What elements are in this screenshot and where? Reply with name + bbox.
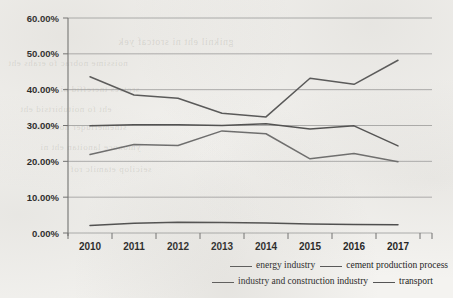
x-tick-label-2015: 2015 [299, 241, 322, 252]
legend-label-energy-industry: energy industry [256, 261, 315, 271]
y-tick-label-10: 10.00% [27, 192, 60, 203]
legend-line-icon [212, 282, 234, 283]
legend-item-cement-production-process[interactable]: cement production process [320, 261, 448, 271]
x-tick-label-2011: 2011 [123, 241, 145, 252]
x-axis-ticks [68, 233, 432, 239]
y-axis-ticks [63, 18, 68, 233]
legend-line-icon [373, 282, 395, 283]
line-chart: 60.00% 50.00% 40.00% 30.00% 20.00% 10.00… [0, 0, 453, 298]
x-tick-label-2012: 2012 [167, 241, 190, 252]
legend-item-energy-industry[interactable]: energy industry [230, 261, 315, 271]
x-tick-label-2016: 2016 [343, 241, 366, 252]
y-tick-label-30: 30.00% [27, 120, 60, 131]
series-line-industry-and-construction-industry [90, 131, 398, 162]
y-tick-label-40: 40.00% [27, 84, 60, 95]
legend-item-industry-and-construction-industry[interactable]: industry and construction industry [212, 277, 368, 287]
legend-label-industry-and-construction-industry: industry and construction industry [238, 277, 368, 287]
y-tick-label-50: 50.00% [27, 48, 60, 59]
legend-row-2: industry and construction industry trans… [205, 274, 450, 290]
data-series-layer [90, 60, 398, 225]
legend-row-1: energy industry cement production proces… [205, 258, 450, 274]
series-line-transport [90, 222, 398, 225]
x-tick-label-2014: 2014 [255, 241, 278, 252]
legend-item-transport[interactable]: transport [373, 277, 433, 287]
legend-label-transport: transport [399, 277, 433, 287]
chart-canvas: 60.00% 50.00% 40.00% 30.00% 20.00% 10.00… [0, 0, 453, 298]
x-tick-label-2010: 2010 [79, 241, 102, 252]
legend-line-icon [230, 266, 252, 267]
y-tick-label-0: 0.00% [32, 228, 59, 239]
legend-line-icon [320, 266, 342, 267]
legend-label-cement-production-process: cement production process [346, 261, 448, 271]
series-line-cement-production-process [90, 124, 398, 146]
x-tick-label-2013: 2013 [211, 241, 234, 252]
chart-legend: energy industry cement production proces… [205, 258, 450, 294]
y-tick-label-20: 20.00% [27, 156, 60, 167]
series-line-energy-industry [90, 60, 398, 117]
y-tick-label-60: 60.00% [27, 13, 60, 24]
x-tick-label-2017: 2017 [387, 241, 410, 252]
